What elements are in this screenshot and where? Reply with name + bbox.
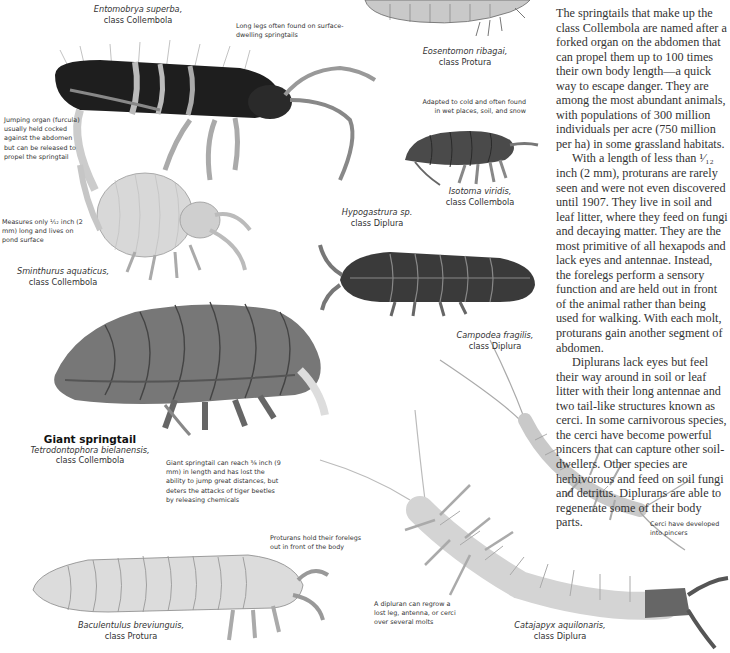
species-name: Hypogastrura sp. bbox=[327, 207, 427, 218]
giant-springtail-illustration bbox=[45, 290, 335, 430]
caption-campodea: Campodea fragilis, class Diplura bbox=[440, 330, 550, 351]
paragraph-diplurans: Diplurans lack eyes but feel their way a… bbox=[556, 355, 728, 530]
caption-hypogastrura: Hypogastrura sp. class Diplura bbox=[327, 207, 427, 228]
isotoma-illustration bbox=[390, 120, 540, 190]
species-name: Isotoma viridis, bbox=[420, 186, 540, 197]
species-name: Catajapyx aquilonaris, bbox=[500, 620, 620, 631]
species-name: Tetrodontophora bielanensis, bbox=[20, 445, 160, 456]
caption-giant-springtail: Giant springtail Tetrodontophora bielane… bbox=[20, 434, 160, 466]
caption-sminthurus: Sminthurus aquaticus, class Collembola bbox=[8, 266, 118, 287]
note-regrow: A dipluran can regrow a lost leg, antenn… bbox=[374, 600, 460, 628]
class-label: class Diplura bbox=[440, 341, 550, 352]
common-name: Giant springtail bbox=[20, 434, 160, 445]
caption-isotoma: Isotoma viridis, class Collembola bbox=[420, 186, 540, 207]
species-name: Entomobrya superba, bbox=[58, 4, 218, 15]
caption-catajapyx: Catajapyx aquilonaris, class Diplura bbox=[500, 620, 620, 641]
paragraph-proturans: With a length of less than ¹⁄₁₂ inch (2 … bbox=[556, 151, 728, 355]
class-label: class Diplura bbox=[327, 218, 427, 229]
species-name: Campodea fragilis, bbox=[440, 330, 550, 341]
note-giant-reach: Giant springtail can reach ³⁄₈ inch (9 m… bbox=[166, 459, 284, 505]
hypogastrura-illustration bbox=[310, 240, 540, 320]
class-label: class Collembola bbox=[420, 197, 540, 208]
note-long-legs: Long legs often found on surface-dwellin… bbox=[236, 22, 346, 40]
species-name: Sminthurus aquaticus, bbox=[8, 266, 118, 277]
class-label: class Protura bbox=[66, 631, 196, 642]
class-label: class Protura bbox=[400, 57, 530, 68]
note-measures: Measures only ¹⁄₁₂ inch (2 mm) long and … bbox=[2, 218, 84, 246]
class-label: class Collembola bbox=[8, 277, 118, 288]
note-proturans-forelegs: Proturans hold their forelegs out in fro… bbox=[270, 534, 370, 552]
body-text-column: The springtails that make up the class C… bbox=[556, 6, 728, 530]
species-name: Baculentulus breviunguis, bbox=[66, 620, 196, 631]
species-name: Eosentomon ribagai, bbox=[400, 46, 530, 57]
caption-baculentulus: Baculentulus breviunguis, class Protura bbox=[66, 620, 196, 641]
note-jumping-organ: Jumping organ (furcula) usually held coc… bbox=[4, 116, 84, 162]
caption-eosentomon: Eosentomon ribagai, class Protura bbox=[400, 46, 530, 67]
eosentomon-illustration bbox=[360, 0, 530, 30]
class-label: class Collembola bbox=[20, 455, 160, 466]
caption-entomobrya: Entomobrya superba, class Collembola bbox=[58, 4, 218, 25]
note-cold-adapted: Adapted to cold and often found in wet p… bbox=[418, 98, 526, 116]
class-label: class Diplura bbox=[500, 631, 620, 642]
paragraph-springtails: The springtails that make up the class C… bbox=[556, 6, 728, 151]
class-label: class Collembola bbox=[58, 15, 218, 26]
